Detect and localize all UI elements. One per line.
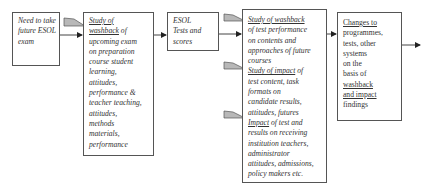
node-text: institution teachers, bbox=[248, 139, 321, 149]
section-heading: Study of washback bbox=[248, 15, 321, 25]
node-text: materials, bbox=[89, 129, 148, 139]
node-text: on contents and bbox=[248, 36, 321, 46]
node-text: Need to take bbox=[18, 16, 54, 26]
node-need-exam: Need to take future ESOL exam bbox=[12, 12, 60, 66]
node-text: findings bbox=[343, 100, 396, 110]
node-heading: Study of bbox=[89, 16, 148, 26]
node-text: programmes, bbox=[343, 28, 396, 38]
node-text: learning, bbox=[89, 67, 148, 77]
node-text: policy makers etc. bbox=[248, 169, 321, 179]
node-heading: Changes to bbox=[343, 18, 396, 28]
node-text: of test performance bbox=[248, 25, 321, 35]
node-text: exam bbox=[18, 37, 54, 47]
callout-flag-washback-prep bbox=[64, 18, 85, 26]
node-text: washback bbox=[343, 80, 396, 90]
node-text: on preparation bbox=[89, 47, 148, 57]
node-studies: Study of washback of test performance on… bbox=[242, 9, 327, 183]
node-text: candidate results, bbox=[248, 97, 321, 107]
node-text: attitudes, bbox=[89, 109, 148, 119]
node-text: course student bbox=[89, 57, 148, 67]
node-text: performance bbox=[89, 140, 148, 150]
node-text: administrator bbox=[248, 149, 321, 159]
node-esol-tests: ESOL Tests and scores bbox=[167, 12, 219, 51]
node-text: approaches of future bbox=[248, 46, 321, 56]
node-text: test content, task bbox=[248, 77, 321, 87]
node-text: of test and bbox=[269, 118, 303, 127]
node-text: tests, other bbox=[343, 39, 396, 49]
section-heading: Impact bbox=[248, 118, 269, 127]
node-text: future ESOL bbox=[18, 26, 54, 36]
node-text: systems bbox=[343, 49, 396, 59]
node-text: upcoming exam bbox=[89, 37, 148, 47]
node-text: performance & bbox=[89, 88, 148, 98]
node-text: attitudes, bbox=[89, 78, 148, 88]
node-text: Tests and bbox=[173, 26, 213, 36]
node-text: attitudes, admissions, bbox=[248, 159, 321, 169]
node-washback-preparation: Study of washback of upcoming exam on pr… bbox=[83, 12, 154, 156]
node-text: formats on bbox=[248, 87, 321, 97]
node-text: and impact bbox=[343, 90, 396, 100]
node-text: results on receiving bbox=[248, 128, 321, 138]
node-text: ESOL bbox=[173, 16, 213, 26]
node-text: attitudes, futures bbox=[248, 108, 321, 118]
node-text: basis of bbox=[343, 69, 396, 79]
node-text: courses bbox=[248, 56, 321, 66]
node-changes: Changes to programmes, tests, other syst… bbox=[337, 12, 402, 121]
node-text: scores bbox=[173, 37, 213, 47]
node-text: on the bbox=[343, 59, 396, 69]
node-text: teacher teaching, bbox=[89, 98, 148, 108]
node-text: methods bbox=[89, 119, 148, 129]
node-text: of bbox=[295, 66, 303, 75]
node-text: of bbox=[119, 26, 127, 35]
node-heading: washback bbox=[89, 26, 119, 35]
section-heading: Study of impact bbox=[248, 66, 295, 75]
